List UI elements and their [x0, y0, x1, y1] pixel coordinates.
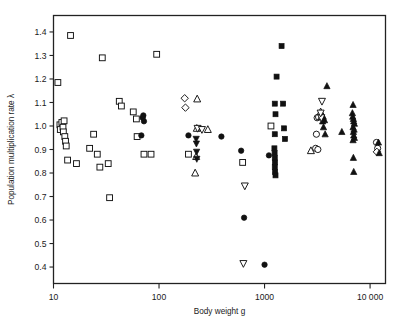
data-point-square-open: [268, 123, 274, 129]
data-point-square-open: [186, 151, 192, 157]
y-axis-title: Population multiplication rate λ: [7, 93, 16, 205]
data-point-triangle-up-filled: [324, 83, 330, 89]
data-point-triangle-up-filled: [322, 131, 328, 137]
data-point-square-filled: [273, 112, 278, 117]
data-point-circle-filled: [262, 262, 267, 267]
data-point-square-open: [148, 151, 154, 157]
data-point-square-open: [107, 195, 113, 201]
data-point-square-open: [240, 160, 246, 166]
y-tick-label: 0.9: [35, 145, 47, 155]
data-point-circle-filled: [139, 133, 144, 138]
data-point-square-open: [119, 103, 125, 109]
data-point-circle-filled: [219, 134, 224, 139]
data-point-triangle-up-open: [194, 95, 201, 102]
data-point-square-filled: [282, 126, 287, 131]
data-point-square-open: [99, 55, 105, 61]
series-filled-up-triangle: [319, 83, 382, 175]
data-point-square-filled: [273, 173, 278, 178]
data-point-square-open: [61, 118, 67, 124]
data-point-square-open: [94, 151, 100, 157]
data-point-square-filled: [272, 151, 277, 156]
data-point-triangle-up-filled: [339, 128, 345, 134]
series-filled-circle: [139, 113, 272, 268]
data-point-diamond-open: [182, 104, 189, 111]
data-point-square-filled: [282, 136, 287, 141]
data-point-square-open: [133, 116, 139, 122]
data-point-circle-filled: [141, 113, 146, 118]
y-tick-label: 0.4: [35, 262, 47, 272]
data-point-square-open: [141, 151, 147, 157]
data-point-square-open: [87, 145, 93, 151]
data-point-circle-filled: [141, 119, 146, 124]
y-tick-label: 1.3: [35, 51, 47, 61]
data-point-triangle-up-open: [192, 169, 199, 176]
data-point-circle-open: [313, 131, 319, 137]
data-point-square-filled: [272, 155, 277, 160]
y-tick-label: 1.1: [35, 98, 47, 108]
data-point-triangle-down-filled: [193, 149, 199, 155]
data-point-square-filled: [272, 146, 277, 151]
data-point-circle-filled: [241, 215, 246, 220]
data-point-square-filled: [272, 160, 277, 165]
data-point-diamond-open: [181, 95, 188, 102]
x-tick-label: 100: [152, 292, 167, 302]
series-open-down-triangle: [194, 98, 325, 267]
x-axis-title: Body weight g: [194, 307, 246, 316]
data-point-square-filled: [279, 44, 284, 49]
y-tick-label: 1.4: [35, 27, 47, 37]
x-tick-label: 10 000: [357, 292, 384, 302]
data-point-square-filled: [274, 74, 279, 79]
data-point-square-filled: [281, 101, 286, 106]
x-tick-label: 1000: [255, 292, 274, 302]
y-tick-label: 0.6: [35, 215, 47, 225]
y-tick-label: 0.8: [35, 168, 47, 178]
data-point-square-open: [74, 161, 80, 167]
data-point-circle-filled: [186, 133, 191, 138]
series-open-square: [55, 33, 274, 201]
data-point-square-open: [130, 109, 136, 115]
data-point-square-open: [65, 157, 71, 163]
data-point-square-open: [105, 161, 111, 167]
data-point-triangle-up-filled: [351, 168, 357, 174]
data-point-square-open: [68, 33, 74, 39]
data-point-triangle-down-filled: [193, 141, 199, 147]
plot-canvas: 0.40.50.60.70.80.91.01.11.21.31.41010010…: [0, 0, 405, 324]
x-tick-label: 10: [49, 292, 59, 302]
data-point-triangle-up-filled: [350, 154, 356, 160]
data-point-triangle-down-open: [241, 183, 248, 190]
data-point-square-open: [97, 164, 103, 170]
data-point-circle-filled: [266, 153, 271, 158]
y-tick-label: 0.5: [35, 239, 47, 249]
data-point-square-filled: [272, 132, 277, 137]
data-point-triangle-down-open: [240, 261, 247, 268]
data-point-square-open: [63, 143, 69, 149]
y-tick-label: 1.2: [35, 74, 47, 84]
series-filled-square: [272, 44, 288, 178]
scatter-plot-figure: 0.40.50.60.70.80.91.01.11.21.31.41010010…: [0, 0, 405, 324]
data-point-square-open: [91, 131, 97, 137]
data-point-triangle-up-filled: [350, 101, 356, 107]
data-point-triangle-up-filled: [320, 124, 326, 130]
data-point-square-filled: [272, 101, 277, 106]
data-point-triangle-down-open: [318, 98, 325, 105]
y-tick-label: 1.0: [35, 121, 47, 131]
y-tick-label: 0.7: [35, 192, 47, 202]
data-point-square-open: [55, 80, 61, 86]
data-point-circle-filled: [238, 148, 243, 153]
data-point-square-filled: [272, 165, 277, 170]
data-point-circle-open: [315, 146, 321, 152]
series-open-up-triangle: [192, 95, 325, 176]
data-point-square-open: [154, 51, 160, 57]
